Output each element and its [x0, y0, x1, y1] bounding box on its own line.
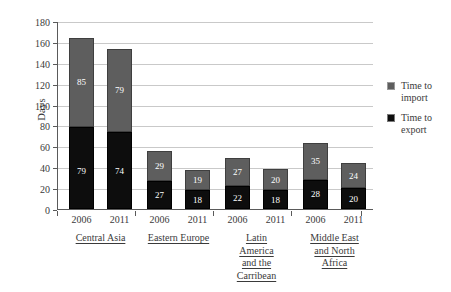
bar-segment-export[interactable]: 22	[225, 186, 250, 209]
bar-segment-import[interactable]: 19	[185, 170, 210, 190]
bar-value-import: 27	[233, 167, 242, 176]
x-tick-label: 2006	[296, 214, 336, 225]
x-tick-mark	[57, 211, 58, 216]
gridline	[58, 22, 373, 23]
legend-label-import: Time to import	[401, 80, 447, 103]
category-label-line: and the	[212, 257, 302, 270]
y-tick-label: 60	[40, 142, 50, 153]
bar-value-export: 18	[193, 195, 202, 204]
x-tick-mark	[291, 211, 292, 216]
category-label-line: Latin	[212, 232, 302, 245]
y-tick-mark	[53, 85, 57, 86]
x-tick-label: 2011	[100, 214, 140, 225]
y-tick-label: 140	[35, 58, 50, 69]
bar-value-export: 28	[311, 190, 320, 199]
x-tick-label: 2006	[218, 214, 258, 225]
chart-container: Days 020406080100120140160180 8579797429…	[0, 0, 451, 292]
bar-value-import: 85	[77, 78, 86, 87]
bar-value-import: 19	[193, 176, 202, 185]
bar-segment-export[interactable]: 28	[303, 180, 328, 209]
bar-segment-import[interactable]: 29	[147, 151, 172, 181]
bar-segment-import[interactable]: 20	[263, 169, 288, 190]
bar-segment-import[interactable]: 85	[69, 38, 94, 127]
bar-segment-import[interactable]: 24	[341, 163, 366, 188]
y-tick-mark	[53, 189, 57, 190]
bar-stack[interactable]: 1918	[185, 170, 210, 209]
bar-segment-export[interactable]: 20	[341, 188, 366, 209]
category-label-line: Carribean	[212, 270, 302, 283]
y-tick-mark	[53, 64, 57, 65]
category-label-line: Africa	[290, 257, 380, 270]
category-label: LatinAmericaand theCarribean	[212, 232, 302, 282]
bar-segment-export[interactable]: 18	[185, 190, 210, 209]
category-label-line: America	[212, 245, 302, 258]
bar-segment-export[interactable]: 79	[69, 127, 94, 210]
x-tick-label: 2011	[256, 214, 296, 225]
y-tick-mark	[53, 168, 57, 169]
bar-segment-import[interactable]: 79	[107, 49, 132, 132]
y-tick-mark	[53, 22, 57, 23]
gridline	[58, 106, 373, 107]
gridline	[58, 43, 373, 44]
category-label-line: and North	[290, 245, 380, 258]
legend-swatch-import-icon	[387, 82, 395, 90]
x-tick-label: 2006	[62, 214, 102, 225]
y-tick-label: 20	[40, 184, 50, 195]
bar-segment-export[interactable]: 27	[147, 181, 172, 209]
x-tick-label: 2006	[140, 214, 180, 225]
bar-stack[interactable]: 2927	[147, 151, 172, 209]
legend-item-time-to-import: Time to import	[387, 80, 447, 103]
bar-value-export: 27	[155, 190, 164, 199]
bar-value-import: 35	[311, 157, 320, 166]
y-tick-label: 0	[45, 205, 50, 216]
y-tick-mark	[53, 126, 57, 127]
gridline	[58, 126, 373, 127]
y-tick-label: 120	[35, 79, 50, 90]
bar-segment-export[interactable]: 74	[107, 132, 132, 209]
legend-label-export: Time to export	[401, 112, 447, 135]
bar-value-export: 79	[77, 167, 86, 176]
x-tick-mark	[361, 211, 362, 216]
bar-value-export: 22	[233, 193, 242, 202]
x-tick-mark	[135, 211, 136, 216]
y-tick-mark	[53, 106, 57, 107]
bar-segment-export[interactable]: 18	[263, 190, 288, 209]
bar-stack[interactable]: 2018	[263, 169, 288, 209]
bar-value-import: 29	[155, 161, 164, 170]
bar-stack[interactable]: 8579	[69, 38, 94, 209]
category-label: Eastern Europe	[134, 232, 224, 245]
plot-area: 020406080100120140160180 857979742927191…	[57, 22, 373, 210]
bar-segment-import[interactable]: 35	[303, 143, 328, 180]
y-tick-label: 160	[35, 37, 50, 48]
x-tick-label: 2011	[334, 214, 374, 225]
y-axis-line	[57, 22, 58, 210]
category-label: Middle Eastand NorthAfrica	[290, 232, 380, 270]
legend-swatch-export-icon	[387, 114, 395, 122]
y-tick-label: 100	[35, 100, 50, 111]
bar-stack[interactable]: 2722	[225, 158, 250, 209]
bar-value-export: 74	[115, 167, 124, 176]
bar-value-export: 18	[271, 195, 280, 204]
category-label-line: Central Asia	[56, 232, 146, 245]
x-tick-mark	[213, 211, 214, 216]
bar-segment-import[interactable]: 27	[225, 158, 250, 186]
bar-stack[interactable]: 3528	[303, 143, 328, 209]
gridline	[58, 64, 373, 65]
bar-value-import: 20	[271, 175, 280, 184]
bar-stack[interactable]: 7974	[107, 49, 132, 209]
y-tick-mark	[53, 43, 57, 44]
category-label-line: Middle East	[290, 232, 380, 245]
y-tick-label: 80	[40, 121, 50, 132]
bar-value-export: 20	[349, 194, 358, 203]
y-tick-label: 40	[40, 163, 50, 174]
legend-item-time-to-export: Time to export	[387, 112, 447, 135]
bar-value-import: 24	[349, 171, 358, 180]
category-label-line: Eastern Europe	[134, 232, 224, 245]
y-tick-label: 180	[35, 17, 50, 28]
bar-stack[interactable]: 2420	[341, 163, 366, 209]
category-label: Central Asia	[56, 232, 146, 245]
bar-value-import: 79	[115, 86, 124, 95]
gridline	[58, 85, 373, 86]
chart-legend: Time to import Time to export	[387, 80, 447, 144]
x-tick-label: 2011	[178, 214, 218, 225]
